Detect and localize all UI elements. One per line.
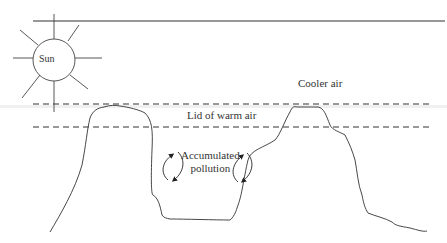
- accumulated-pollution-label: Accumulated pollution: [181, 149, 240, 175]
- warm-air-lid-label: Lid of warm air: [187, 109, 256, 121]
- pollution-label-line1: Accumulated: [181, 149, 240, 162]
- left-circulation-arrows: [163, 152, 183, 180]
- sun-icon: [13, 14, 102, 112]
- pollution-label-line2: pollution: [181, 162, 240, 175]
- cooler-air-label: Cooler air: [298, 77, 342, 89]
- diagram-graphics: [0, 0, 447, 243]
- sun-label: Sun: [39, 53, 55, 64]
- inversion-diagram: Sun Cooler air Lid of warm air Accumulat…: [0, 0, 447, 243]
